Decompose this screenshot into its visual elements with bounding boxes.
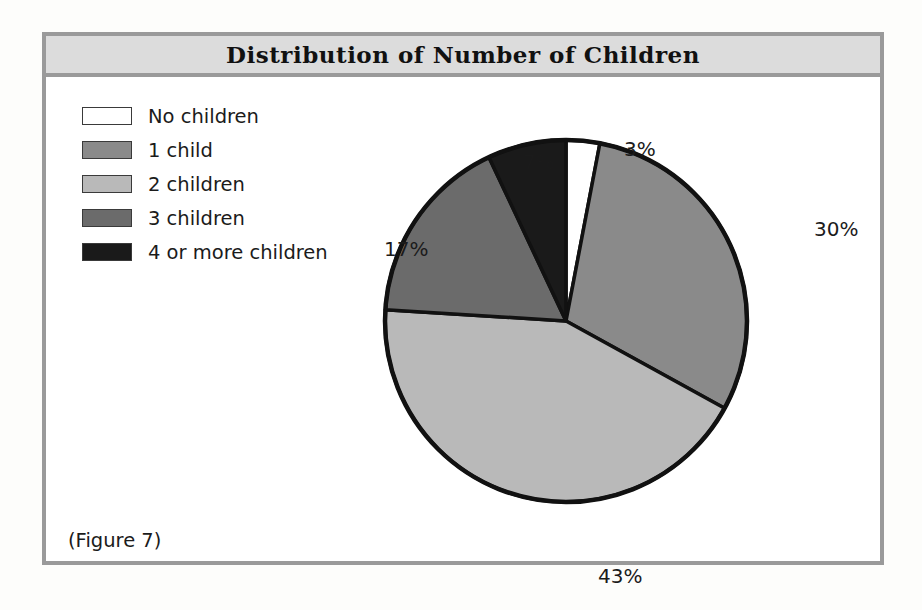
pie-chart-svg bbox=[380, 135, 752, 507]
pie-value-label-4-or-more-children: 7% bbox=[523, 150, 555, 174]
plot-area: No children 1 child 2 children 3 childre… bbox=[46, 77, 880, 561]
pie-value-label-2-children: 43% bbox=[598, 564, 642, 588]
pie-value-label-no-children: 3% bbox=[624, 137, 656, 161]
figure-frame: Distribution of Number of Children No ch… bbox=[42, 32, 884, 565]
chart-title-bar: Distribution of Number of Children bbox=[46, 36, 880, 77]
pie-value-label-1-child: 30% bbox=[814, 217, 858, 241]
pie-value-label-3-children: 17% bbox=[384, 237, 428, 261]
figure-caption: (Figure 7) bbox=[68, 529, 161, 552]
page-title: Distribution of Number of Children bbox=[226, 41, 700, 68]
pie-chart: 3% 30% 43% 17% 7% bbox=[46, 77, 880, 561]
